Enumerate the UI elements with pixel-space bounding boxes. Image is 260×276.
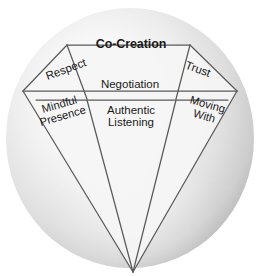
diagram-canvas: Co-Creation Respect Negotiation Trust Mi… xyxy=(0,0,260,276)
gem-diagram xyxy=(0,0,260,276)
